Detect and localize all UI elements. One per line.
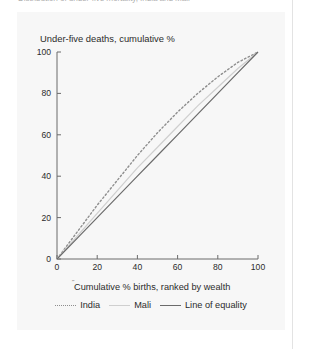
- x-tick-label-group: 020406080100: [57, 262, 258, 276]
- plot-area: [57, 52, 258, 259]
- legend-label: Line of equality: [185, 300, 247, 310]
- x-axis-title: ˝Cumulative % births, ranked by wealth: [17, 280, 285, 292]
- x-axis-title-text: Cumulative % births, ranked by wealth: [74, 282, 230, 292]
- x-tick-label: 40: [133, 262, 143, 272]
- series-line-of-equality: [57, 52, 258, 259]
- figure-panel: Under-five deaths, cumulative % 10080604…: [17, 12, 285, 330]
- x-tick-label: 60: [173, 262, 183, 272]
- legend-item-line-of-equality[interactable]: Line of equality: [160, 300, 247, 310]
- legend-swatch: [55, 302, 76, 309]
- legend-item-mali[interactable]: Mali: [109, 300, 151, 310]
- legend-swatch: [109, 302, 130, 309]
- x-tick-label: 0: [55, 262, 60, 272]
- legend-swatch: [160, 302, 181, 309]
- x-tick-label: 100: [251, 262, 265, 272]
- screenshot-root: Distribution of under-five mortality, In…: [0, 0, 310, 349]
- document-heading: Distribution of under-five mortality, In…: [18, 0, 286, 3]
- series-layer: [57, 52, 258, 259]
- legend-label: India: [80, 300, 100, 310]
- legend-label: Mali: [134, 300, 151, 310]
- x-tick-label: 80: [213, 262, 223, 272]
- chart-legend: IndiaMaliLine of equality: [17, 300, 285, 310]
- page-vertical-rule: [292, 0, 293, 349]
- legend-item-india[interactable]: India: [55, 300, 100, 310]
- x-tick-label: 20: [92, 262, 102, 272]
